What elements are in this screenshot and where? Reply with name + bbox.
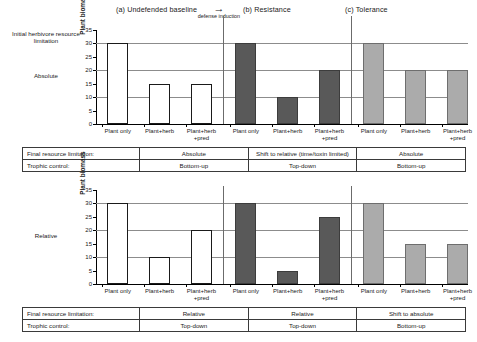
x-tick-mark: [442, 284, 443, 287]
x-tick-mark: [358, 124, 359, 127]
panel-divider-2: [351, 186, 352, 284]
x-tick-mark: [272, 284, 273, 287]
summary-table-top: Final resource limitation:AbsoluteShift …: [22, 147, 466, 172]
panel-divider-1: [223, 16, 224, 124]
y-tick-label: 5: [89, 108, 92, 114]
gridline-20: [96, 230, 468, 231]
x-tick-mark: [102, 284, 103, 287]
x-tick-mark: [442, 124, 443, 127]
table-cell: Absolute: [357, 148, 466, 160]
x-tick-label: Plant only: [225, 288, 267, 295]
y-tick-mark: [93, 84, 96, 85]
y-tick-label: 10: [85, 254, 92, 260]
bar: [447, 244, 468, 284]
x-tick-label: Plant+herb: [395, 128, 437, 135]
row-label-absolute: Absolute: [12, 72, 80, 79]
x-tick-label-line2: +pred: [308, 135, 350, 142]
x-tick-label-line1: Plant+herb: [180, 128, 222, 135]
y-tick-label: 5: [89, 268, 92, 274]
y-tick-label: 0: [89, 281, 92, 287]
plot-area-bottom: 05101520253035 Plant onlyPlant+herbPlant…: [96, 190, 468, 284]
y-tick-label: 35: [85, 27, 92, 33]
x-tick-mark: [230, 284, 231, 287]
bar: [405, 244, 426, 284]
bar: [107, 203, 128, 284]
panel-divider-1: [223, 186, 224, 284]
bar: [149, 257, 170, 284]
x-tick-label: Plant only: [97, 288, 139, 295]
x-tick-mark: [400, 124, 401, 127]
table-cell: Absolute: [140, 148, 249, 160]
x-tick-mark: [186, 124, 187, 127]
x-tick-label: Plant+herb+pred: [180, 128, 222, 141]
bar: [447, 70, 468, 124]
y-tick-mark: [93, 30, 96, 31]
table-cell: Bottom-up: [357, 320, 466, 332]
y-tick-label: 15: [85, 81, 92, 87]
x-tick-label-line1: Plant+herb: [437, 288, 477, 295]
x-tick-mark: [358, 284, 359, 287]
y-axis-title-bottom: Plant biomass: [79, 138, 86, 208]
bar: [277, 271, 298, 284]
table-cell: Shift to absolute: [357, 308, 466, 320]
x-tick-label-line2: +pred: [437, 295, 477, 302]
x-tick-label: Plant+herb: [267, 288, 309, 295]
bar: [191, 84, 212, 124]
y-tick-label: 15: [85, 241, 92, 247]
panel-title-a: (a) Undefended baseline: [116, 5, 197, 14]
x-tick-label: Plant+herb+pred: [180, 288, 222, 301]
table-cell: Top-down: [248, 320, 357, 332]
x-tick-label-line2: +pred: [437, 135, 477, 142]
bar: [191, 230, 212, 284]
y-tick-label: 30: [85, 200, 92, 206]
x-tick-label: Plant+herb: [267, 128, 309, 135]
x-tick-mark: [400, 284, 401, 287]
x-tick-label-line1: Plant+herb: [180, 288, 222, 295]
y-tick-label: 35: [85, 187, 92, 193]
x-tick-label-line1: Plant+herb: [437, 128, 477, 135]
x-tick-label: Plant+herb+pred: [437, 128, 477, 141]
x-tick-mark: [102, 124, 103, 127]
y-tick-mark: [93, 217, 96, 218]
x-tick-label-line1: Plant+herb: [308, 128, 350, 135]
bar: [363, 203, 384, 284]
bar: [149, 84, 170, 124]
x-tick-mark: [230, 124, 231, 127]
x-axis-line-top: [96, 124, 468, 125]
x-axis-line-bottom: [96, 284, 468, 285]
table-row: Trophic control:Top-downTop-downBottom-u…: [23, 320, 466, 332]
x-tick-label: Plant only: [353, 128, 395, 135]
y-tick-label: 20: [85, 67, 92, 73]
x-tick-mark: [314, 284, 315, 287]
x-tick-mark: [314, 124, 315, 127]
gridline-30: [96, 43, 468, 44]
x-tick-label: Plant+herb+pred: [437, 288, 477, 301]
table-cell: Bottom-up: [357, 160, 466, 172]
table-cell: Bottom-up: [140, 160, 249, 172]
y-tick-mark: [93, 190, 96, 191]
y-tick-label: 25: [85, 54, 92, 60]
y-tick-mark: [93, 57, 96, 58]
panel-title-c: (c) Tolerance: [345, 5, 388, 14]
panel-divider-2: [351, 16, 352, 124]
x-tick-mark: [144, 284, 145, 287]
plot-area-top: 05101520253035 Plant onlyPlant+herbPlant…: [96, 30, 468, 124]
bar: [235, 203, 256, 284]
table-cell: Top-down: [140, 320, 249, 332]
x-tick-mark: [186, 284, 187, 287]
x-tick-label: Plant+herb+pred: [308, 288, 350, 301]
bar: [363, 43, 384, 124]
bar: [235, 43, 256, 124]
y-tick-label: 25: [85, 214, 92, 220]
x-tick-label: Plant only: [353, 288, 395, 295]
x-tick-label-line2: +pred: [180, 295, 222, 302]
bar: [107, 43, 128, 124]
y-tick-label: 30: [85, 40, 92, 46]
panel-headers: (a) Undefended baseline → defense induct…: [0, 0, 472, 26]
chart-top: Initial herbivore resource limitation Ab…: [0, 26, 472, 143]
x-tick-mark: [272, 124, 273, 127]
table-row-header: Trophic control:: [23, 320, 140, 332]
x-tick-label: Plant+herb: [139, 288, 181, 295]
table-row: Final resource limitation:RelativeRelati…: [23, 308, 466, 320]
y-tick-mark: [93, 284, 96, 285]
